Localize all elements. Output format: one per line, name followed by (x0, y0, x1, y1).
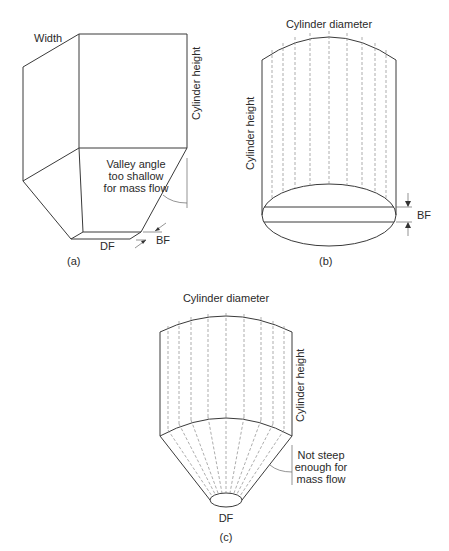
label-cylinder-diameter-b: Cylinder diameter (286, 18, 373, 30)
label-width: Width (34, 32, 62, 44)
label-bf-a: BF (156, 234, 170, 246)
label-cylinder-diameter-c: Cylinder diameter (183, 292, 270, 304)
figure-a-wedge-hopper (23, 34, 187, 248)
hopper-diagrams: Width Cylinder height Valley angle too s… (0, 0, 449, 551)
label-valley-1: Valley angle (106, 158, 165, 170)
label-df-a: DF (100, 240, 115, 252)
label-df-c: DF (219, 512, 234, 524)
caption-b: (b) (319, 255, 332, 267)
figure-c-conical-hopper (160, 313, 292, 507)
label-cylinder-height-b: Cylinder height (244, 97, 256, 170)
label-valley-2: too shallow (108, 170, 163, 182)
label-cylinder-height-a: Cylinder height (190, 47, 202, 120)
caption-c: (c) (220, 531, 233, 543)
label-bf-b: BF (417, 209, 431, 221)
label-not-steep-2: enough for (295, 461, 348, 473)
caption-a: (a) (67, 255, 80, 267)
label-cylinder-height-c: Cylinder height (294, 349, 306, 422)
label-not-steep-3: mass flow (297, 473, 346, 485)
label-not-steep-1: Not steep (297, 449, 344, 461)
figure-b-cylinder (262, 31, 412, 246)
label-valley-3: for mass flow (104, 182, 169, 194)
